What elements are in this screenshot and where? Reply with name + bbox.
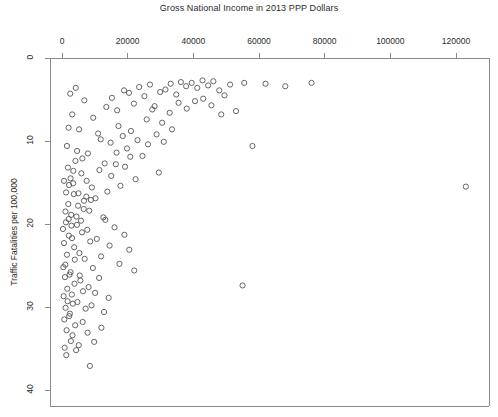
data-point <box>118 183 123 188</box>
data-point <box>195 85 200 90</box>
data-point <box>142 94 147 99</box>
data-point <box>201 96 206 101</box>
data-point <box>83 306 88 311</box>
data-point <box>121 88 126 93</box>
data-point <box>147 82 152 87</box>
data-point <box>184 84 189 89</box>
data-point <box>64 328 69 333</box>
data-point <box>156 170 161 175</box>
data-point <box>92 339 97 344</box>
data-point <box>91 115 96 120</box>
data-point <box>233 109 238 114</box>
chart-canvas: Gross National Income in 2013 PPP Dollar… <box>0 0 498 417</box>
data-point <box>64 353 69 358</box>
data-point <box>135 138 140 143</box>
data-point <box>109 95 114 100</box>
data-point <box>133 177 138 182</box>
data-point <box>85 151 90 156</box>
data-point <box>189 80 194 85</box>
data-point <box>120 133 125 138</box>
data-point <box>88 197 93 202</box>
data-point <box>94 236 99 241</box>
data-point <box>86 284 91 289</box>
data-point <box>109 173 114 178</box>
data-point <box>82 98 87 103</box>
axis-group <box>45 53 489 406</box>
data-point <box>73 158 78 163</box>
data-point <box>78 278 83 283</box>
data-point <box>72 281 77 286</box>
data-point <box>61 240 66 245</box>
data-point <box>80 319 85 324</box>
data-point <box>137 84 142 89</box>
data-point <box>145 142 150 147</box>
data-point <box>75 148 80 153</box>
data-point <box>62 345 67 350</box>
data-point <box>169 127 174 132</box>
data-point <box>112 225 117 230</box>
data-point <box>76 127 81 132</box>
data-point <box>228 82 233 87</box>
data-point <box>167 110 172 115</box>
data-point <box>96 131 101 136</box>
data-point <box>116 123 121 128</box>
data-point <box>117 261 122 266</box>
data-point <box>72 257 77 262</box>
data-point <box>87 363 92 368</box>
data-point <box>85 227 90 232</box>
data-point <box>84 178 89 183</box>
data-point <box>77 250 82 255</box>
data-point <box>65 165 70 170</box>
data-point <box>66 216 71 221</box>
data-point <box>64 190 69 195</box>
data-point <box>68 338 73 343</box>
data-point <box>106 295 111 300</box>
data-point <box>124 146 129 151</box>
data-point <box>178 79 183 84</box>
data-point <box>127 247 132 252</box>
data-point <box>163 87 168 92</box>
data-point <box>200 78 205 83</box>
data-point <box>63 220 68 225</box>
data-point <box>64 143 69 148</box>
data-point <box>66 125 71 130</box>
data-point <box>211 79 216 84</box>
data-point <box>79 171 84 176</box>
data-point <box>79 230 84 235</box>
data-point <box>158 89 163 94</box>
data-point <box>70 301 75 306</box>
data-point <box>77 273 82 278</box>
data-point <box>113 162 118 167</box>
data-point <box>126 90 131 95</box>
data-point <box>174 92 179 97</box>
data-point <box>68 176 73 181</box>
data-point <box>93 290 98 295</box>
data-point <box>64 252 69 257</box>
data-point <box>160 120 165 125</box>
data-point <box>209 103 214 108</box>
data-point <box>154 132 159 137</box>
data-point <box>192 99 197 104</box>
data-point <box>70 112 75 117</box>
data-point <box>107 243 112 248</box>
data-point <box>122 232 127 237</box>
data-point <box>78 218 83 223</box>
data-point <box>108 140 113 145</box>
data-point <box>104 104 109 109</box>
data-point <box>242 80 247 85</box>
data-point <box>68 91 73 96</box>
data-point <box>74 222 79 227</box>
data-point <box>71 168 76 173</box>
data-point <box>87 208 92 213</box>
data-point <box>206 83 211 88</box>
data-point <box>101 309 106 314</box>
data-point <box>102 161 107 166</box>
data-point <box>309 80 314 85</box>
data-point <box>131 101 136 106</box>
data-point <box>63 209 68 214</box>
data-point <box>263 81 268 86</box>
data-point <box>81 206 86 211</box>
data-point <box>283 84 288 89</box>
data-point <box>61 178 66 183</box>
scatter-plot-svg <box>0 0 498 417</box>
